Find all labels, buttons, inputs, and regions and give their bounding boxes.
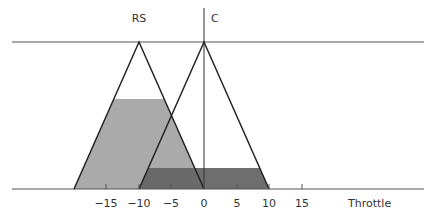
c-label: C — [211, 12, 219, 25]
tick-label: 10 — [262, 197, 276, 210]
tick-label: 5 — [234, 197, 241, 210]
tick-label: −15 — [94, 197, 117, 210]
tick-label: 15 — [295, 197, 309, 210]
tick-label: −5 — [163, 197, 179, 210]
fuzzy-membership-chart: −15 −10 −5 0 5 10 15 Throttle RS C — [0, 0, 434, 219]
x-axis-label: Throttle — [347, 197, 391, 210]
rs-label: RS — [132, 12, 147, 25]
tick-label: −10 — [127, 197, 150, 210]
tick-label: 0 — [201, 197, 208, 210]
